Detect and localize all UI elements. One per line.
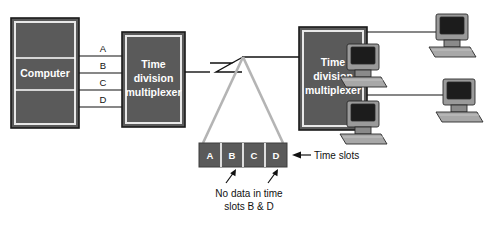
time-slot-label-c: C (251, 150, 258, 161)
terminal-3-keyboard (436, 112, 483, 122)
computer-box: Computer (11, 18, 79, 128)
terminal-1-stand (444, 40, 460, 47)
time-slot-label-d: D (273, 150, 280, 161)
channel-label-a: A (100, 43, 107, 54)
terminal-3-screen (447, 82, 471, 99)
terminal-2-keyboard (340, 77, 387, 87)
terminal-3-stand (451, 105, 467, 112)
channel-label-d: D (100, 94, 107, 105)
tdm-diagram: Computer A B C D Time division multiplex… (0, 0, 484, 225)
time-slot-label-b: B (229, 150, 236, 161)
time-slot-label-a: A (207, 150, 214, 161)
time-division-multiplexer-left: Time division multiplexer (122, 32, 185, 127)
channel-label-c: C (100, 77, 107, 88)
mux-right-label-line1: Time (321, 56, 345, 68)
time-slot-bar: A B C D (199, 143, 287, 167)
terminal-1-keyboard (429, 47, 476, 57)
mux-left-label-line2: division (134, 72, 174, 84)
mux-left-label-line1: Time (141, 58, 165, 70)
no-data-caption-line2: slots B & D (224, 201, 273, 212)
terminal-2-stand (355, 70, 371, 77)
mux-left-label-line3: multiplexer (125, 86, 181, 98)
terminal-2-screen (351, 47, 375, 64)
terminal-4-screen (351, 104, 375, 121)
terminal-4-stand (355, 127, 371, 134)
time-slots-callout-label: Time slots (314, 150, 359, 161)
terminal-4-keyboard (340, 134, 387, 144)
no-data-caption-line1: No data in time (215, 188, 283, 199)
channel-label-b: B (100, 60, 106, 71)
computer-box-label: Computer (20, 67, 70, 79)
terminal-1-screen (440, 17, 464, 34)
